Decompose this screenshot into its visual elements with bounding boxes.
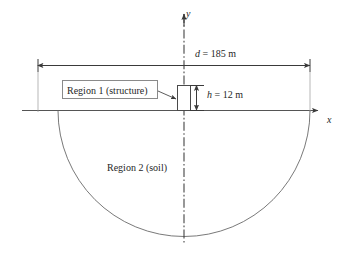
width-value: 185 xyxy=(211,48,226,59)
height-symbol: h xyxy=(207,89,212,100)
y-axis-label: y xyxy=(186,9,190,19)
width-unit: m xyxy=(228,48,236,59)
width-symbol: d xyxy=(195,48,200,59)
height-unit: m xyxy=(235,89,243,100)
height-value: 12 xyxy=(223,89,233,100)
height-dimension-group xyxy=(190,86,204,111)
height-equals: = xyxy=(215,89,221,100)
region1-structure-group xyxy=(178,86,191,111)
region1-label: Region 1 (structure) xyxy=(67,85,148,96)
height-dimension-label: h = 12 m xyxy=(207,90,243,100)
region1-leader-line xyxy=(158,91,176,99)
region1-leader-group xyxy=(158,91,176,99)
width-dimension-label: d = 185 m xyxy=(195,49,236,59)
region2-label: Region 2 (soil) xyxy=(107,163,167,173)
figure-canvas: y x d = 185 m h = 12 m Region 1 (structu… xyxy=(0,0,343,256)
x-axis-label: x xyxy=(327,115,331,125)
diagram-svg xyxy=(0,0,343,256)
region1-structure-rect xyxy=(178,86,191,111)
region1-callout-box: Region 1 (structure) xyxy=(62,80,158,99)
width-equals: = xyxy=(203,48,209,59)
